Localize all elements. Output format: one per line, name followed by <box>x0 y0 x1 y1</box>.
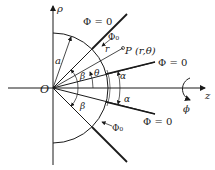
radius-r-line <box>53 48 123 88</box>
phi0-top-label: Φ₀ <box>108 32 119 42</box>
beta-top-arc <box>71 70 78 88</box>
phi0-bottom-label: Φ₀ <box>112 123 123 133</box>
alpha-bottom-label: α <box>124 94 130 104</box>
beta-bottom-label: β <box>79 101 85 111</box>
phi-label: ϕ <box>183 103 190 114</box>
a-label: a <box>55 55 61 66</box>
origin-label: O <box>40 83 49 96</box>
cone-diagram: ρ z O ϕ a r P (r,θ) α α β β θ Φ = 0 Φ = … <box>0 0 215 170</box>
alpha-bottom-arc <box>118 88 120 104</box>
r-label: r <box>105 44 110 54</box>
theta-arc <box>90 72 93 88</box>
beta-bottom-arc <box>71 88 78 106</box>
phi-zero-inner-top-label: Φ = 0 <box>158 57 187 68</box>
beta-top-label: β <box>79 71 85 81</box>
theta-label: θ <box>94 68 100 78</box>
phi0-bottom-pointer <box>102 122 112 126</box>
z-label: z <box>204 90 211 101</box>
point-p-label: P (r,θ) <box>124 45 156 56</box>
phi-zero-top-label: Φ = 0 <box>83 16 112 27</box>
rho-label: ρ <box>56 3 63 14</box>
phi-zero-inner-bottom-line <box>106 102 155 114</box>
phi-zero-inner-top-line <box>106 62 155 74</box>
phi-rotation-arrow <box>183 78 191 100</box>
alpha-top-label: α <box>120 71 126 81</box>
phi-zero-inner-bottom-label: Φ = 0 <box>143 116 172 127</box>
